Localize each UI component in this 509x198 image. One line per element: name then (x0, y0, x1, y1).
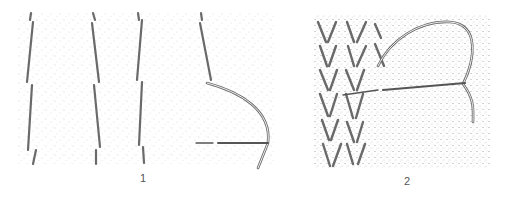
figure-1-illustration (0, 0, 290, 175)
figure-2-drawing (290, 0, 509, 175)
figure-2-label: 2 (397, 175, 417, 187)
stipple-background (18, 12, 274, 164)
figure-2-illustration (290, 0, 509, 175)
figure-1-label: 1 (133, 172, 153, 184)
figure-1-drawing (0, 0, 290, 175)
